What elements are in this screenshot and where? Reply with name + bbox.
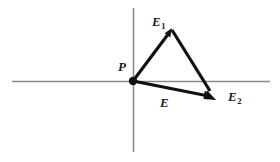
label-vector-e1: E1 <box>152 15 165 28</box>
vector-e-arrowhead <box>203 91 216 100</box>
origin-point-dot <box>129 77 137 85</box>
label-vector-e2: E2 <box>228 90 241 103</box>
label-vector-e: E <box>160 96 169 109</box>
vector-diagram-canvas <box>0 0 280 162</box>
label-vector-e2-subscript: 2 <box>237 96 241 106</box>
label-vector-e-text: E <box>160 95 169 110</box>
label-origin-p: P <box>118 60 126 73</box>
label-vector-e1-subscript: 1 <box>161 21 165 31</box>
label-origin-p-text: P <box>118 59 126 74</box>
vector-e1-shaft <box>133 35 168 81</box>
label-vector-e1-base: E <box>152 14 161 29</box>
vector-diagram-figure: P E1 E E2 <box>0 0 280 162</box>
label-vector-e2-base: E <box>228 89 237 104</box>
vector-e-shaft <box>133 81 206 96</box>
